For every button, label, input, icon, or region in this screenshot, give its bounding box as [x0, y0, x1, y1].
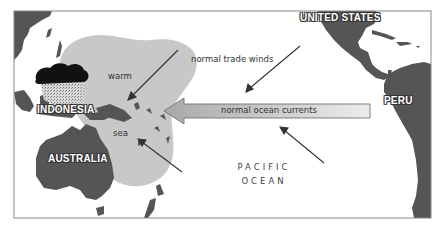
label-warm: warm [108, 71, 132, 81]
label-pacific: PACIFIC [229, 162, 299, 172]
south-america-landmass [384, 62, 431, 218]
label-peru: PERU [384, 95, 413, 106]
trade-wind-arrow-4 [280, 127, 324, 163]
label-sea: sea [113, 128, 128, 138]
label-united-states: UNITED STATES [300, 12, 381, 23]
trade-wind-arrow-2 [246, 46, 300, 92]
label-trade-winds: normal trade winds [191, 54, 273, 64]
label-indonesia: INDONESIA [37, 104, 94, 115]
label-ocean: OCEAN [229, 176, 299, 186]
sumatra-landmass [14, 90, 34, 112]
label-pacific-ocean: PACIFIC OCEAN [229, 162, 299, 186]
asia-landmass [14, 11, 52, 60]
new-zealand-landmass [156, 184, 164, 196]
label-ocean-currents: normal ocean currents [221, 105, 317, 115]
label-australia: AUSTRALIA [48, 153, 108, 164]
storm-cloud-icon [35, 63, 88, 84]
